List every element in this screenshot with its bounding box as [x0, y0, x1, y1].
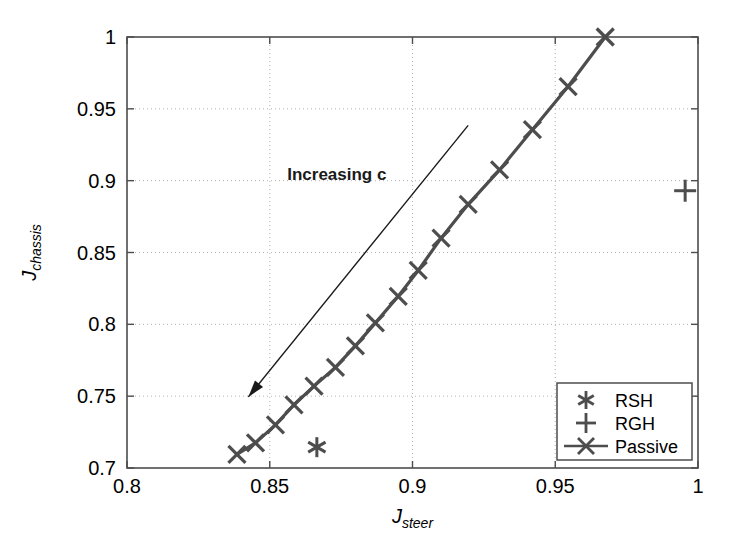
x-axis-title: Jsteer — [391, 505, 434, 531]
annotation-layer: Increasing c — [248, 125, 468, 397]
svg-text:Jsteer: Jsteer — [391, 505, 434, 531]
y-tick-label: 0.85 — [77, 242, 116, 264]
legend-box: RSHRGHPassive — [557, 383, 692, 460]
annotation-arrow-head — [248, 380, 263, 396]
marker-cross — [228, 446, 245, 463]
marker-plus — [674, 180, 696, 202]
y-axis-title: Jchassis — [18, 224, 44, 282]
legend-label: RSH — [615, 391, 653, 411]
marker-cross — [306, 378, 323, 395]
marker-cross — [460, 196, 477, 213]
series-passive — [228, 29, 613, 463]
marker-cross — [267, 416, 284, 433]
y-tick-label: 0.95 — [77, 98, 116, 120]
y-tick-label: 0.9 — [88, 170, 116, 192]
marker-cross — [247, 434, 264, 451]
x-tick-label: 0.9 — [399, 475, 427, 497]
marker-cross — [390, 288, 407, 305]
legend-label: Passive — [615, 437, 678, 457]
marker-asterisk — [308, 437, 325, 457]
x-tick-label: 0.85 — [250, 475, 289, 497]
marker-cross — [433, 230, 450, 247]
x-tick-label: 0.95 — [536, 475, 575, 497]
series-rgh — [674, 180, 696, 202]
marker-cross — [286, 396, 303, 413]
series-rsh — [308, 437, 325, 457]
svg-text:Jchassis: Jchassis — [18, 224, 44, 282]
marker-cross — [491, 161, 508, 178]
y-tick-label: 0.75 — [77, 385, 116, 407]
x-tick-label: 1 — [692, 475, 703, 497]
scatter-plot-figure: Increasing c 0.80.850.90.9510.70.750.80.… — [0, 0, 734, 560]
marker-cross — [560, 78, 577, 95]
figure-root: Increasing c 0.80.850.90.9510.70.750.80.… — [0, 0, 734, 560]
axis-titles: JsteerJchassis — [18, 224, 434, 531]
marker-cross — [410, 262, 427, 279]
annotation-text: Increasing c — [287, 165, 386, 184]
plot-canvas: Increasing c 0.80.850.90.9510.70.750.80.… — [0, 0, 734, 560]
marker-cross — [347, 337, 364, 354]
series-line — [237, 37, 605, 454]
x-tick-label: 0.8 — [113, 475, 141, 497]
y-tick-label: 0.7 — [88, 457, 116, 479]
marker-cross — [524, 121, 541, 138]
marker-cross — [327, 359, 344, 376]
marker-cross — [367, 314, 384, 331]
y-tick-label: 0.8 — [88, 313, 116, 335]
legend-label: RGH — [615, 414, 655, 434]
y-tick-label: 1 — [105, 26, 116, 48]
